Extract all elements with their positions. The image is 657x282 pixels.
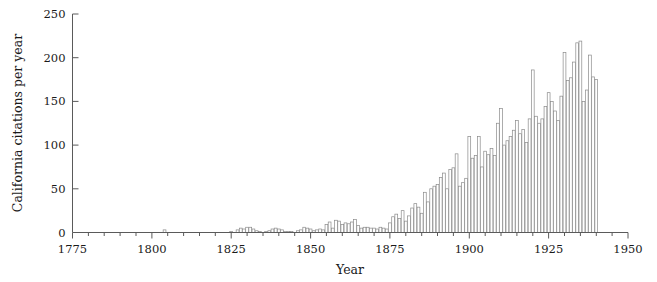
- bar: [246, 227, 249, 232]
- bar: [550, 101, 553, 232]
- bar: [531, 70, 534, 233]
- x-tick-label: 1875: [375, 242, 404, 256]
- bar: [328, 222, 331, 232]
- bar: [252, 229, 255, 233]
- bar: [493, 156, 496, 233]
- bar: [395, 214, 398, 232]
- bar: [427, 202, 430, 233]
- bar: [309, 229, 312, 233]
- bar: [436, 184, 439, 232]
- bar: [446, 189, 449, 233]
- citations-per-year-bar-chart: 050100150200250 177518001825185018751900…: [0, 0, 657, 282]
- bar: [243, 229, 246, 233]
- y-tick-label: 250: [44, 7, 66, 21]
- bar: [503, 145, 506, 232]
- bar: [341, 225, 344, 233]
- bar: [239, 228, 242, 232]
- bar: [379, 227, 382, 232]
- bar: [455, 154, 458, 233]
- bar: [462, 183, 465, 233]
- x-tick-label: 1850: [296, 242, 325, 256]
- bar: [569, 78, 572, 233]
- x-tick-label: 1900: [455, 242, 484, 256]
- bar: [487, 155, 490, 233]
- bar: [331, 228, 334, 232]
- bar: [350, 222, 353, 232]
- bar: [544, 107, 547, 233]
- y-tick-label: 150: [44, 94, 66, 108]
- bar: [576, 43, 579, 233]
- bar: [595, 80, 598, 233]
- bar: [519, 134, 522, 233]
- bar: [500, 108, 503, 232]
- bar: [490, 149, 493, 233]
- bar: [319, 229, 322, 233]
- bar: [354, 219, 357, 232]
- bar: [360, 228, 363, 232]
- bar: [573, 62, 576, 232]
- bar: [554, 111, 557, 232]
- bar: [303, 227, 306, 232]
- bar: [582, 101, 585, 232]
- bar: [306, 228, 309, 232]
- bar: [465, 178, 468, 232]
- bar: [398, 219, 401, 233]
- bar: [506, 141, 509, 233]
- bar: [414, 204, 417, 233]
- y-axis-title: California citations per year: [10, 34, 25, 212]
- x-axis-title: Year: [335, 262, 364, 277]
- x-tick-label: 1775: [58, 242, 87, 256]
- bar: [430, 189, 433, 233]
- bar: [376, 229, 379, 233]
- bar: [525, 142, 528, 232]
- bar: [535, 116, 538, 232]
- bar: [522, 129, 525, 232]
- bar: [477, 136, 480, 232]
- bar: [474, 156, 477, 233]
- bar: [509, 136, 512, 232]
- bar: [589, 55, 592, 232]
- bar: [344, 223, 347, 233]
- bar: [249, 227, 252, 232]
- bar: [541, 119, 544, 233]
- x-tick-label: 1950: [613, 242, 642, 256]
- x-tick-label: 1800: [137, 242, 166, 256]
- bar: [274, 228, 277, 232]
- bar: [382, 228, 385, 232]
- bar: [458, 186, 461, 232]
- bar: [547, 93, 550, 233]
- bar: [512, 130, 515, 232]
- bar: [420, 213, 423, 232]
- bar: [566, 80, 569, 232]
- bar: [277, 229, 280, 233]
- bar: [468, 136, 471, 232]
- bar: [579, 41, 582, 232]
- bar: [592, 77, 595, 233]
- bar: [433, 186, 436, 232]
- bar: [484, 151, 487, 232]
- bar: [366, 227, 369, 232]
- bar: [557, 121, 560, 233]
- bar: [404, 221, 407, 232]
- bar: [357, 226, 360, 233]
- bar: [385, 229, 388, 233]
- y-tick-label: 200: [44, 51, 66, 65]
- bar: [471, 158, 474, 232]
- bar: [271, 229, 274, 233]
- bar: [439, 177, 442, 232]
- bar: [452, 168, 455, 233]
- bar: [392, 217, 395, 233]
- bar: [538, 123, 541, 232]
- y-tick-label: 50: [51, 182, 66, 196]
- bar: [417, 207, 420, 232]
- bar: [516, 121, 519, 233]
- bar: [373, 228, 376, 232]
- bar: [528, 119, 531, 233]
- bar: [411, 208, 414, 232]
- bar: [496, 123, 499, 232]
- chart-figure: 050100150200250 177518001825185018751900…: [0, 0, 657, 282]
- bar: [335, 220, 338, 232]
- bar: [363, 227, 366, 232]
- bar: [347, 224, 350, 233]
- y-tick-label: 0: [58, 226, 65, 240]
